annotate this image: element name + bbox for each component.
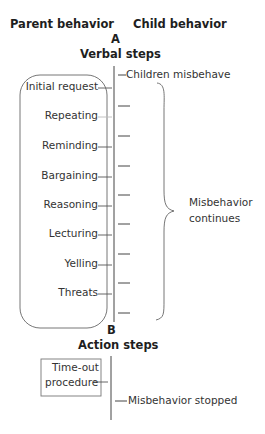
step-yelling: Yelling bbox=[8, 257, 98, 269]
time-out-line2: procedure bbox=[45, 376, 98, 388]
misbehavior-stopped-label: Misbehavior stopped bbox=[128, 394, 237, 406]
section-a-title: Verbal steps bbox=[80, 47, 161, 61]
step-threats: Threats bbox=[8, 286, 98, 298]
curly-brace-icon bbox=[156, 83, 174, 320]
time-out-line1: Time-out bbox=[52, 361, 99, 373]
section-b-title: Action steps bbox=[78, 338, 158, 352]
section-a-letter: A bbox=[111, 32, 120, 46]
step-repeating: Repeating bbox=[8, 109, 98, 121]
child-ticks bbox=[118, 106, 130, 313]
child-behavior-header: Child behavior bbox=[133, 17, 227, 31]
parent-behavior-header: Parent behavior bbox=[10, 17, 114, 31]
step-initial-request: Initial request bbox=[8, 80, 98, 92]
step-bargaining: Bargaining bbox=[8, 169, 98, 181]
misbehavior-continues-line1: Misbehavior bbox=[189, 196, 253, 208]
children-misbehave-label: Children misbehave bbox=[126, 68, 231, 80]
step-lecturing: Lecturing bbox=[8, 227, 98, 239]
step-reminding: Reminding bbox=[8, 139, 98, 151]
misbehavior-continues-line2: continues bbox=[189, 212, 240, 224]
parent-step-ticks bbox=[98, 88, 112, 294]
section-b-letter: B bbox=[107, 323, 116, 337]
step-reasoning: Reasoning bbox=[8, 198, 98, 210]
